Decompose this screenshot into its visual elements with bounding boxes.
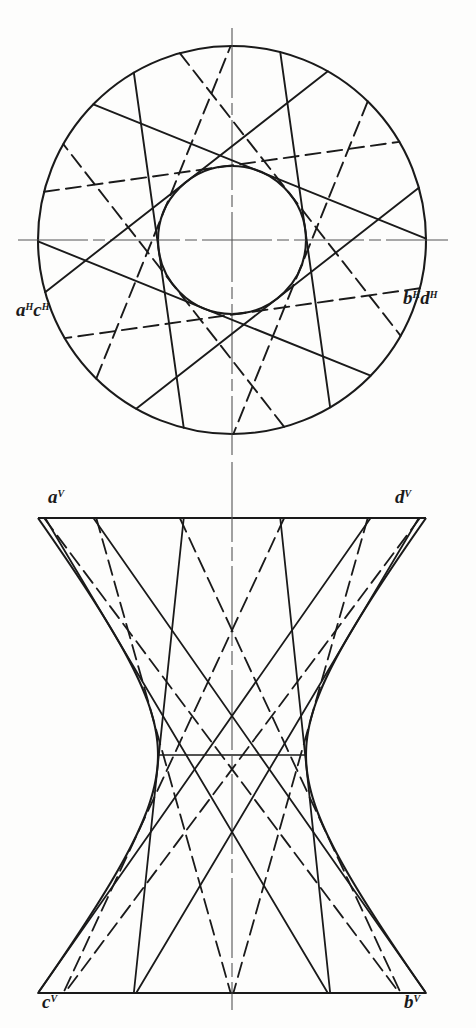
generator-chord-7 — [134, 73, 184, 428]
label-c-v: cV — [42, 992, 57, 1011]
drawing-sheet: aHcH bHdH aV dV cV bV — [0, 0, 476, 1028]
label-d-v: dV — [395, 487, 411, 506]
generator-chord-4 — [65, 288, 420, 338]
top-view-plan — [18, 28, 448, 455]
technical-drawing-canvas — [0, 0, 476, 1028]
label-b-v: bV — [404, 992, 420, 1011]
front-view-elevation — [38, 462, 426, 1010]
label-a-v: aV — [48, 487, 64, 506]
generator-chord-10 — [44, 142, 399, 192]
label-b-h-d-h: bHdH — [403, 288, 438, 307]
label-a-h-c-h: aHcH — [16, 300, 50, 319]
generator-chord-1 — [280, 52, 330, 407]
